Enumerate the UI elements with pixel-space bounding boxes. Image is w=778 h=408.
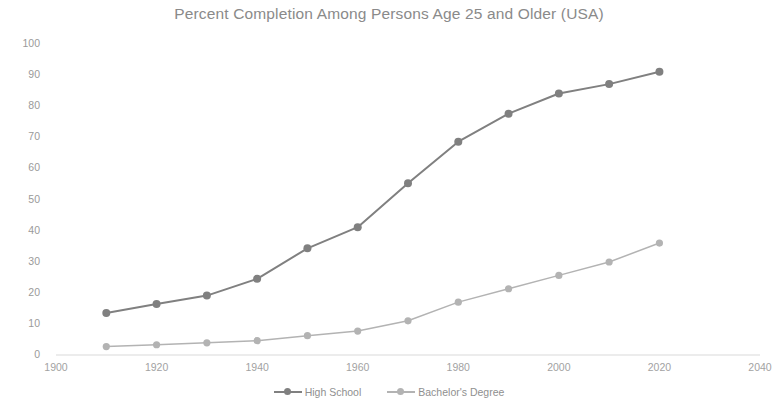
chart-legend: High SchoolBachelor's Degree (0, 386, 778, 398)
data-point (404, 317, 411, 324)
x-axis-tick-label: 1960 (328, 362, 388, 373)
data-point (505, 110, 513, 118)
y-axis-tick-label: 50 (4, 194, 40, 205)
data-point (203, 339, 210, 346)
chart-container: Percent Completion Among Persons Age 25 … (0, 0, 778, 408)
x-axis-tick-label: 2040 (730, 362, 778, 373)
data-point (153, 300, 161, 308)
series-line-1 (106, 72, 659, 313)
data-point (304, 332, 311, 339)
data-point (655, 68, 663, 76)
legend-label: High School (305, 386, 362, 398)
data-point (203, 292, 211, 300)
series-line-2 (106, 243, 659, 347)
data-point (254, 337, 261, 344)
y-axis-tick-label: 60 (4, 162, 40, 173)
data-point (303, 244, 311, 252)
y-axis-tick-label: 40 (4, 225, 40, 236)
data-point (354, 223, 362, 231)
data-point (454, 138, 462, 146)
legend-line-marker-icon (274, 387, 302, 397)
y-axis-tick-label: 0 (4, 349, 40, 360)
data-point (354, 327, 361, 334)
x-axis-tick-label: 2000 (529, 362, 589, 373)
x-axis-tick-label: 1940 (227, 362, 287, 373)
legend-item[interactable]: Bachelor's Degree (387, 386, 504, 398)
y-axis-tick-label: 20 (4, 287, 40, 298)
legend-label: Bachelor's Degree (418, 386, 504, 398)
data-point (455, 299, 462, 306)
x-axis-tick-label: 2020 (629, 362, 689, 373)
y-axis-tick-label: 100 (4, 38, 40, 49)
data-point (103, 343, 110, 350)
data-point (606, 258, 613, 265)
y-axis-tick-label: 90 (4, 69, 40, 80)
data-point (656, 239, 663, 246)
y-axis-tick-label: 80 (4, 100, 40, 111)
data-point (153, 341, 160, 348)
data-point (404, 179, 412, 187)
data-point (102, 309, 110, 317)
data-point (555, 272, 562, 279)
x-axis-tick-label: 1980 (428, 362, 488, 373)
data-point (605, 80, 613, 88)
y-axis-tick-label: 10 (4, 318, 40, 329)
plot-area (0, 0, 778, 408)
data-point (505, 285, 512, 292)
x-axis-tick-label: 1900 (26, 362, 86, 373)
legend-item[interactable]: High School (274, 386, 362, 398)
data-point (253, 275, 261, 283)
y-axis-tick-label: 70 (4, 131, 40, 142)
x-axis-tick-label: 1920 (127, 362, 187, 373)
data-point (555, 89, 563, 97)
legend-line-marker-icon (387, 387, 415, 397)
y-axis-tick-label: 30 (4, 256, 40, 267)
